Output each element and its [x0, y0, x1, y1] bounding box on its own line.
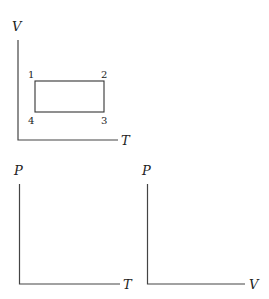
pt-diagram: P T — [13, 163, 133, 292]
cycle-point-4: 4 — [28, 115, 34, 126]
pv-diagram: P V — [141, 163, 260, 292]
cycle-point-3: 3 — [101, 115, 107, 126]
vt-y-axis-label: V — [12, 19, 23, 34]
cycle-point-2: 2 — [101, 69, 107, 80]
vt-x-axis-label: T — [121, 133, 131, 148]
pt-x-axis-label: T — [123, 277, 133, 292]
pt-axes — [20, 184, 121, 284]
pv-y-axis-label: P — [141, 163, 151, 178]
vt-cycle-rectangle — [35, 81, 104, 112]
pv-axes — [148, 184, 246, 284]
cycle-point-1: 1 — [28, 69, 34, 80]
pt-y-axis-label: P — [13, 163, 23, 178]
vt-diagram: V T 1 2 3 4 — [12, 19, 131, 148]
pv-x-axis-label: V — [249, 277, 260, 292]
thermo-cycle-diagrams: V T 1 2 3 4 P T P V — [0, 0, 269, 299]
